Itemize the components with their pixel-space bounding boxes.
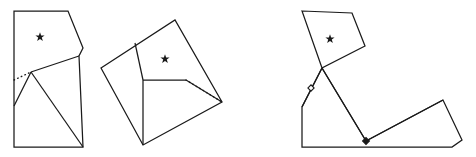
panel-left <box>14 11 83 147</box>
panel-middle-outline <box>101 20 222 145</box>
panel-right-outline <box>302 11 462 147</box>
panel-left-outline <box>14 11 83 147</box>
origami-diagram-figure <box>0 0 476 157</box>
diagram-canvas <box>0 0 476 157</box>
panel-right <box>302 11 462 147</box>
panel-middle <box>101 20 222 145</box>
